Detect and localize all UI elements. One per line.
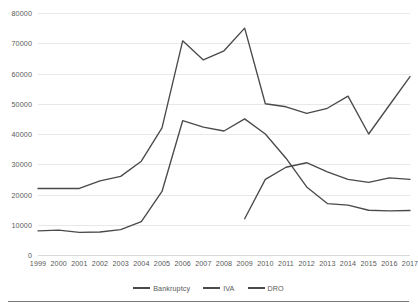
legend-line-icon xyxy=(248,287,265,288)
gridline-0 xyxy=(38,255,410,256)
x-tick-label: 2001 xyxy=(71,259,87,268)
x-tick-label: 2008 xyxy=(216,259,232,268)
x-tick-label: 2014 xyxy=(340,259,356,268)
x-tick-label: 2006 xyxy=(174,259,190,268)
legend-entry-dro[interactable]: DRO xyxy=(248,284,284,293)
x-tick-label: 2003 xyxy=(112,259,128,268)
x-tick-label: 2007 xyxy=(195,259,211,268)
y-tick-label: 80000 xyxy=(12,9,33,18)
x-tick-label: 2000 xyxy=(50,259,66,268)
x-tick-label: 2013 xyxy=(319,259,335,268)
x-tick-label: 2017 xyxy=(402,259,418,268)
legend-line-icon xyxy=(133,287,150,288)
legend-line-icon xyxy=(203,287,220,288)
series-line-bankruptcy xyxy=(38,119,410,232)
y-tick-label: 10000 xyxy=(12,220,33,229)
x-tick-label: 2009 xyxy=(236,259,252,268)
legend-label: DRO xyxy=(268,284,284,293)
y-tick-label: 70000 xyxy=(12,39,33,48)
legend-label: IVA xyxy=(223,284,234,293)
y-tick-label: 20000 xyxy=(12,190,33,199)
x-tick-label: 2011 xyxy=(278,259,294,268)
x-tick-label: 1999 xyxy=(30,259,46,268)
y-tick-label: 60000 xyxy=(12,69,33,78)
x-tick-label: 2016 xyxy=(381,259,397,268)
x-tick-label: 2010 xyxy=(257,259,273,268)
x-tick-label: 2015 xyxy=(360,259,376,268)
x-tick-label: 2002 xyxy=(92,259,108,268)
bottom-divider xyxy=(8,301,409,302)
x-tick-label: 2005 xyxy=(154,259,170,268)
series-line-iva xyxy=(38,28,410,188)
plot-area xyxy=(38,13,410,255)
legend-label: Bankruptcy xyxy=(153,284,190,293)
series-layer xyxy=(38,13,410,255)
x-tick-label: 2004 xyxy=(133,259,149,268)
y-tick-label: 40000 xyxy=(12,130,33,139)
legend-entry-iva[interactable]: IVA xyxy=(203,284,234,293)
x-axis: 1999200020012002200320042005200620072008… xyxy=(38,259,410,273)
y-tick-label: 50000 xyxy=(12,99,33,108)
legend-entry-bankruptcy[interactable]: Bankruptcy xyxy=(133,284,190,293)
chart-legend: BankruptcyIVADRO xyxy=(0,281,417,295)
x-tick-label: 2012 xyxy=(298,259,314,268)
y-tick-label: 30000 xyxy=(12,160,33,169)
